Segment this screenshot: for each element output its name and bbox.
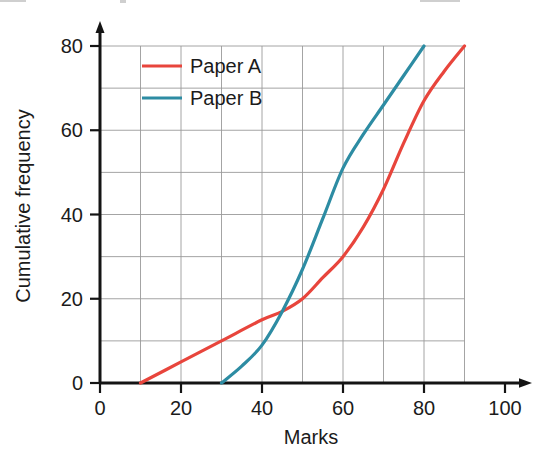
y-tick-label: 80 bbox=[61, 35, 83, 57]
chart-svg: 020406080100 020406080 Marks Cumulative … bbox=[0, 0, 545, 451]
x-axis-title: Marks bbox=[284, 426, 338, 448]
x-tick-label: 100 bbox=[488, 397, 521, 419]
y-tick-label: 0 bbox=[72, 372, 83, 394]
cumulative-frequency-chart: 020406080100 020406080 Marks Cumulative … bbox=[0, 0, 545, 451]
grid-horizontal-lines bbox=[100, 46, 465, 341]
axis-lines bbox=[96, 21, 533, 388]
y-axis-tick-labels: 020406080 bbox=[61, 35, 83, 394]
chart-legend: Paper APaper B bbox=[142, 55, 262, 109]
x-tick-label: 20 bbox=[170, 397, 192, 419]
scan-artifact bbox=[420, 0, 460, 2]
x-tick-label: 80 bbox=[413, 397, 435, 419]
y-tick-label: 20 bbox=[61, 288, 83, 310]
y-axis-title: Cumulative frequency bbox=[12, 109, 34, 302]
x-axis-arrow bbox=[519, 378, 532, 388]
x-tick-label: 40 bbox=[251, 397, 273, 419]
y-axis-arrow bbox=[96, 21, 105, 33]
y-tick-label: 60 bbox=[61, 119, 83, 141]
scan-artifact bbox=[120, 0, 126, 3]
legend-label-paper-b: Paper B bbox=[190, 87, 262, 109]
y-tick-label: 40 bbox=[61, 204, 83, 226]
x-tick-label: 60 bbox=[332, 397, 354, 419]
x-axis-tick-labels: 020406080100 bbox=[94, 397, 521, 419]
legend-label-paper-a: Paper A bbox=[190, 55, 262, 77]
x-tick-label: 0 bbox=[94, 397, 105, 419]
scan-artifact bbox=[0, 0, 26, 2]
